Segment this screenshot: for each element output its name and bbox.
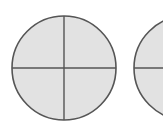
circle-quartered-1 [12,16,116,120]
fraction-diagram [0,0,163,136]
circle-quartered-2 [134,16,163,120]
